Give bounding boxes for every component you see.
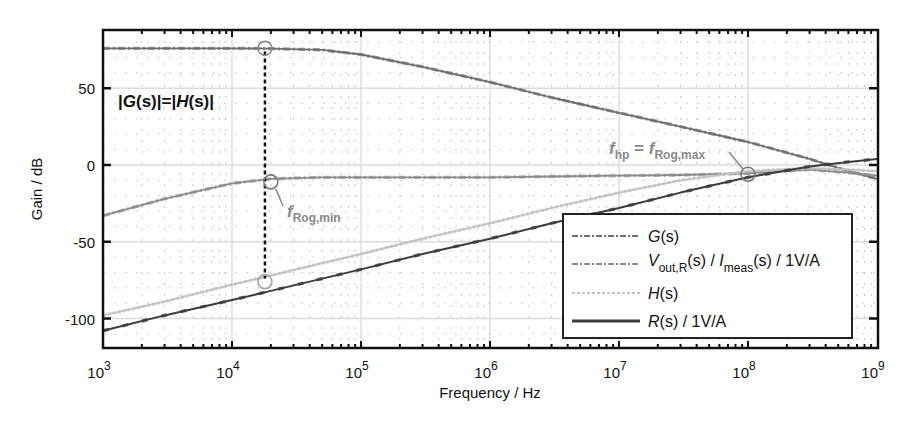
legend-label-g: G(s)	[648, 228, 679, 245]
leader-line-f-rog-max	[729, 152, 743, 169]
legend-label-h: H(s)	[648, 285, 678, 302]
y-tick-label: -50	[73, 234, 95, 251]
bode-gain-chart: G(s) Vout,R(s) / Imeas(s) / 1V/A H(s) R(…	[0, 0, 906, 425]
x-tick-label: 104	[216, 359, 240, 381]
x-tick-label: 103	[87, 359, 111, 381]
annotation-g-equals-h: |G(s)|=|H(s)|	[118, 92, 214, 111]
x-tick-label: 107	[603, 359, 627, 381]
x-tick-label: 106	[474, 359, 498, 381]
leader-line-f-rog-min	[276, 189, 283, 206]
y-axis-title: Gain / dB	[28, 158, 45, 221]
y-tick-label: 0	[87, 157, 95, 174]
x-tick-label: 105	[345, 359, 369, 381]
x-axis-title: Frequency / Hz	[439, 384, 541, 401]
x-tick-label: 109	[861, 359, 885, 381]
annotation-f-rog-min: fRog,min	[287, 202, 341, 225]
y-tick-label: -100	[65, 311, 95, 328]
legend-label-r: R(s) / 1V/A	[648, 313, 727, 330]
x-tick-label: 108	[732, 359, 756, 381]
marker-circle-f-rog-min	[264, 175, 278, 189]
legend: G(s) Vout,R(s) / Imeas(s) / 1V/A H(s) R(…	[563, 214, 852, 338]
annotation-f-hp-rog-max: fhp = fRog,max	[609, 139, 705, 162]
y-tick-label: 50	[78, 80, 95, 97]
